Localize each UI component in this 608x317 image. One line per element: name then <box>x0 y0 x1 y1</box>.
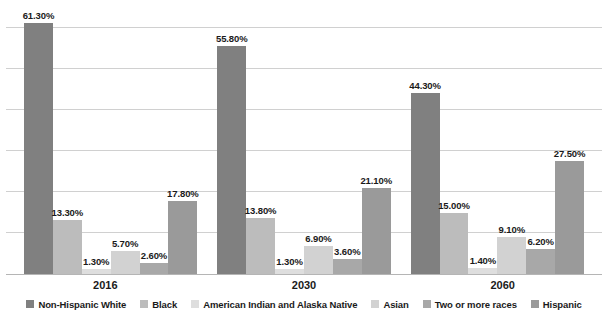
legend-swatch-icon <box>26 300 34 308</box>
bar-2016-american-indian-and-alaska-native[interactable]: 1.30% <box>82 269 111 274</box>
bar-value-label: 3.60% <box>334 246 360 257</box>
legend-label: American Indian and Alaska Native <box>203 299 357 310</box>
bar-value-label: 61.30% <box>23 10 55 21</box>
legend-item-non-hispanic-white[interactable]: Non-Hispanic White <box>26 299 126 310</box>
bar-2060-american-indian-and-alaska-native[interactable]: 1.40% <box>468 268 497 274</box>
bar-slot: 27.50% <box>555 8 584 274</box>
bar-group-2016: 61.30%13.30%1.30%5.70%2.60%17.80% <box>6 8 207 274</box>
bar-slot: 9.10% <box>497 8 526 274</box>
bar-2016-two-or-more-races[interactable]: 2.60% <box>140 263 169 274</box>
bar-value-label: 1.30% <box>83 256 109 267</box>
bar-value-label: 1.30% <box>276 256 302 267</box>
legend-item-two-or-more-races[interactable]: Two or more races <box>423 299 517 310</box>
bar-value-label: 17.80% <box>167 188 199 199</box>
bar-slot: 6.90% <box>304 8 333 274</box>
chart-legend: Non-Hispanic WhiteBlackAmerican Indian a… <box>0 296 608 312</box>
legend-swatch-icon <box>140 300 148 308</box>
x-tick-2016: 2016 <box>6 277 205 293</box>
bar-2060-two-or-more-races[interactable]: 6.20% <box>526 249 555 274</box>
bar-slot: 3.60% <box>333 8 362 274</box>
bar-group-2030: 55.80%13.80%1.30%6.90%3.60%21.10% <box>207 8 400 274</box>
bar-slot: 44.30% <box>411 8 440 274</box>
bar-value-label: 44.30% <box>409 80 441 91</box>
legend-label: Two or more races <box>435 299 517 310</box>
bar-value-label: 6.20% <box>527 236 553 247</box>
bar-2060-hispanic[interactable]: 27.50% <box>555 161 584 274</box>
bar-value-label: 13.80% <box>245 205 277 216</box>
legend-item-black[interactable]: Black <box>140 299 177 310</box>
bar-2016-asian[interactable]: 5.70% <box>111 251 140 274</box>
bar-2016-hispanic[interactable]: 17.80% <box>168 201 197 274</box>
bar-slot: 17.80% <box>168 8 197 274</box>
bar-2030-non-hispanic-white[interactable]: 55.80% <box>217 46 246 274</box>
legend-swatch-icon <box>371 300 379 308</box>
bar-value-label: 27.50% <box>554 148 586 159</box>
legend-label: Asian <box>383 299 408 310</box>
bar-value-label: 21.10% <box>360 175 392 186</box>
bar-2030-american-indian-and-alaska-native[interactable]: 1.30% <box>275 269 304 274</box>
bar-slot: 6.20% <box>526 8 555 274</box>
legend-label: Non-Hispanic White <box>38 299 126 310</box>
bar-value-label: 1.40% <box>470 255 496 266</box>
bar-value-label: 2.60% <box>141 250 167 261</box>
legend-swatch-icon <box>191 300 199 308</box>
bar-2016-black[interactable]: 13.30% <box>53 220 82 274</box>
bar-2060-black[interactable]: 15.00% <box>440 213 469 274</box>
bar-groups: 61.30%13.30%1.30%5.70%2.60%17.80%55.80%1… <box>6 8 602 274</box>
legend-label: Hispanic <box>543 299 582 310</box>
bar-slot: 1.30% <box>82 8 111 274</box>
plot-area: 61.30%13.30%1.30%5.70%2.60%17.80%55.80%1… <box>6 8 602 275</box>
bar-group-2060: 44.30%15.00%1.40%9.10%6.20%27.50% <box>401 8 602 274</box>
bar-value-label: 9.10% <box>499 224 525 235</box>
bar-slot: 13.80% <box>246 8 275 274</box>
bar-value-label: 13.30% <box>52 207 84 218</box>
x-tick-2030: 2030 <box>205 277 404 293</box>
bar-value-label: 55.80% <box>216 33 248 44</box>
bar-slot: 2.60% <box>140 8 169 274</box>
bar-slot: 1.30% <box>275 8 304 274</box>
bar-chart: 61.30%13.30%1.30%5.70%2.60%17.80%55.80%1… <box>0 0 608 317</box>
x-tick-2060: 2060 <box>403 277 602 293</box>
legend-item-asian[interactable]: Asian <box>371 299 408 310</box>
x-axis-baseline <box>6 274 602 275</box>
legend-item-american-indian-and-alaska-native[interactable]: American Indian and Alaska Native <box>191 299 357 310</box>
bar-slot: 61.30% <box>24 8 53 274</box>
bar-value-label: 15.00% <box>438 200 470 211</box>
bar-2030-two-or-more-races[interactable]: 3.60% <box>333 259 362 274</box>
legend-item-hispanic[interactable]: Hispanic <box>531 299 582 310</box>
bar-2030-hispanic[interactable]: 21.10% <box>362 188 391 274</box>
bar-value-label: 6.90% <box>305 233 331 244</box>
legend-swatch-icon <box>531 300 539 308</box>
bar-slot: 13.30% <box>53 8 82 274</box>
bar-value-label: 5.70% <box>112 238 138 249</box>
bar-2030-black[interactable]: 13.80% <box>246 218 275 274</box>
legend-swatch-icon <box>423 300 431 308</box>
bar-slot: 1.40% <box>468 8 497 274</box>
bar-2060-non-hispanic-white[interactable]: 44.30% <box>411 93 440 274</box>
bar-2030-asian[interactable]: 6.90% <box>304 246 333 274</box>
bar-2016-non-hispanic-white[interactable]: 61.30% <box>24 23 53 274</box>
x-axis-tick-labels: 201620302060 <box>6 277 602 293</box>
bar-slot: 5.70% <box>111 8 140 274</box>
bar-2060-asian[interactable]: 9.10% <box>497 237 526 274</box>
legend-label: Black <box>152 299 177 310</box>
bar-slot: 15.00% <box>440 8 469 274</box>
bar-slot: 21.10% <box>362 8 391 274</box>
bar-slot: 55.80% <box>217 8 246 274</box>
